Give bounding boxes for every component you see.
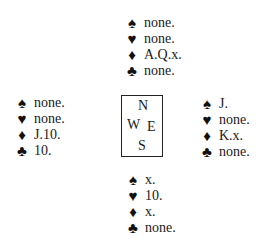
south-diamonds: x. bbox=[145, 204, 156, 220]
diamond-icon: ♦ bbox=[15, 127, 29, 143]
spade-icon: ♠ bbox=[15, 95, 29, 111]
east-diamonds: K.x. bbox=[219, 128, 243, 144]
club-icon: ♣ bbox=[200, 144, 214, 160]
club-icon: ♣ bbox=[125, 63, 139, 79]
west-spades: none. bbox=[34, 95, 65, 111]
south-clubs: none. bbox=[145, 220, 176, 236]
compass-east: E bbox=[147, 120, 156, 134]
club-icon: ♣ bbox=[126, 220, 140, 236]
spade-icon: ♠ bbox=[200, 96, 214, 112]
club-icon: ♣ bbox=[15, 143, 29, 159]
east-clubs: none. bbox=[219, 144, 250, 160]
compass-south: S bbox=[138, 139, 146, 153]
east-hearts: none. bbox=[219, 112, 250, 128]
west-diamonds: J.10. bbox=[34, 127, 60, 143]
north-spades: none. bbox=[144, 15, 175, 31]
diamond-icon: ♦ bbox=[125, 47, 139, 63]
diamond-icon: ♦ bbox=[200, 128, 214, 144]
heart-icon: ♥ bbox=[126, 188, 140, 204]
heart-icon: ♥ bbox=[200, 112, 214, 128]
spade-icon: ♠ bbox=[125, 15, 139, 31]
west-hearts: none. bbox=[34, 111, 65, 127]
heart-icon: ♥ bbox=[15, 111, 29, 127]
east-spades: J. bbox=[219, 96, 228, 112]
south-spades: x. bbox=[145, 172, 156, 188]
compass-box: N W E S bbox=[121, 95, 163, 157]
south-hearts: 10. bbox=[145, 188, 163, 204]
north-diamonds: A.Q.x. bbox=[144, 47, 182, 63]
diamond-icon: ♦ bbox=[126, 204, 140, 220]
north-hearts: none. bbox=[144, 31, 175, 47]
north-clubs: none. bbox=[144, 63, 175, 79]
compass-west: W bbox=[127, 118, 140, 132]
west-clubs: 10. bbox=[34, 143, 52, 159]
compass-north: N bbox=[138, 99, 148, 113]
spade-icon: ♠ bbox=[126, 172, 140, 188]
heart-icon: ♥ bbox=[125, 31, 139, 47]
